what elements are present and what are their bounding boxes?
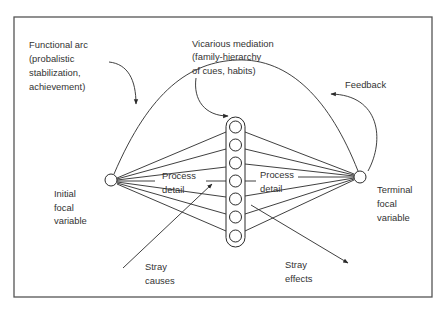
svg-text:focal: focal	[54, 202, 74, 213]
svg-text:(family-hierarchy: (family-hierarchy	[192, 51, 262, 62]
svg-text:Process: Process	[162, 170, 196, 181]
svg-text:Terminal: Terminal	[377, 184, 412, 195]
terminal-focal-variable-node	[354, 171, 366, 183]
initial-focal-variable-node	[105, 174, 117, 186]
process-detail-left-label: Process detail	[162, 170, 196, 195]
svg-text:Stray: Stray	[145, 261, 167, 272]
process-detail-right-label: Process detail	[260, 169, 294, 194]
functional-arc-label: Functional arc (probalistic stabilizatio…	[29, 39, 88, 92]
initial-to-mediators-lines	[117, 132, 226, 231]
svg-text:Vicarious mediation: Vicarious mediation	[192, 38, 274, 49]
mediator-column	[226, 117, 245, 247]
svg-text:Initial: Initial	[54, 188, 76, 199]
vicarious-mediation-pointer-arrow	[196, 78, 228, 116]
initial-focal-variable-label: Initial focal variable	[54, 188, 87, 226]
svg-text:Process: Process	[260, 169, 294, 180]
feedback-arrow	[331, 94, 377, 171]
svg-text:Stray: Stray	[285, 259, 307, 270]
svg-text:causes: causes	[145, 275, 175, 286]
stray-effects-label: Stray effects	[285, 259, 313, 284]
svg-text:stabilization,: stabilization,	[29, 67, 81, 78]
svg-text:focal: focal	[377, 198, 397, 209]
svg-text:detail: detail	[162, 184, 184, 195]
svg-text:detail: detail	[260, 183, 282, 194]
functional-arc-pointer-arrow	[109, 62, 136, 104]
svg-text:effects: effects	[285, 273, 313, 284]
mediators-to-terminal-lines	[245, 132, 354, 231]
stray-causes-arrow	[123, 184, 212, 268]
vicarious-mediation-label: Vicarious mediation (family-hierarchy of…	[192, 38, 274, 76]
stray-effects-arrow	[251, 205, 348, 263]
feedback-label: Feedback	[345, 79, 386, 90]
svg-text:variable: variable	[377, 212, 410, 223]
svg-text:of cues, habits): of cues, habits)	[192, 65, 256, 76]
stray-causes-label: Stray causes	[145, 261, 175, 286]
svg-text:Functional arc: Functional arc	[29, 39, 88, 50]
svg-text:(probalistic: (probalistic	[29, 53, 75, 64]
svg-text:variable: variable	[54, 215, 87, 226]
terminal-focal-variable-label: Terminal focal variable	[377, 184, 412, 223]
svg-text:Feedback: Feedback	[345, 79, 386, 90]
lens-model-diagram: Functional arc (probalistic stabilizatio…	[0, 0, 446, 313]
svg-text:achievement): achievement)	[29, 81, 85, 92]
